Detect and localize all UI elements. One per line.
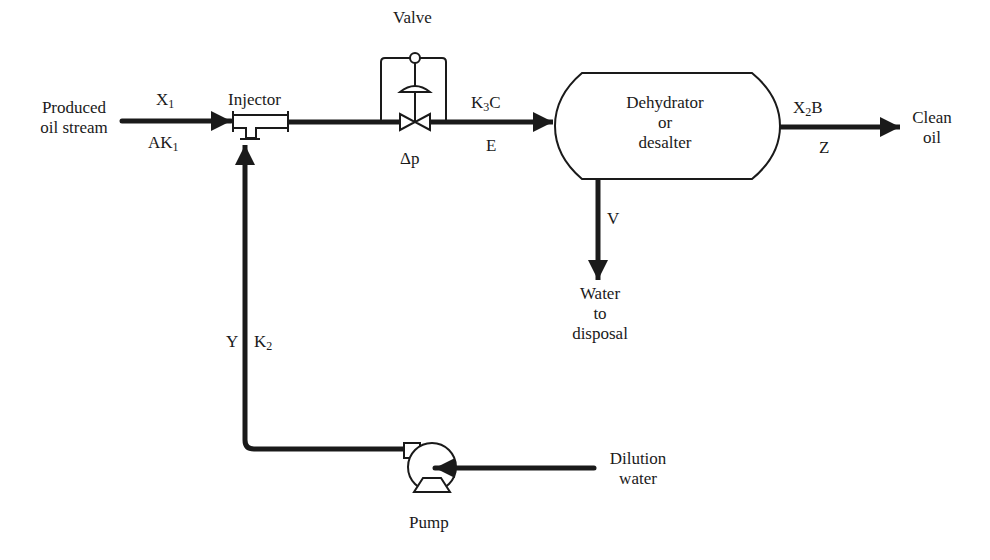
injector-icon bbox=[233, 111, 288, 139]
dehydrator-label-line1: Dehydrator bbox=[590, 93, 740, 113]
v-label: V bbox=[607, 209, 619, 229]
dilution-label-line1: Dilution bbox=[594, 449, 682, 469]
dehydrator-label-line2: or bbox=[590, 113, 740, 133]
dehydrator-label-line3: desalter bbox=[590, 133, 740, 153]
water-label-line1: Water bbox=[560, 284, 640, 304]
control-valve-icon bbox=[381, 53, 446, 130]
z-label: Z bbox=[819, 138, 829, 158]
dehydrator-label: Dehydrator or desalter bbox=[590, 93, 740, 153]
e-label: E bbox=[486, 136, 496, 156]
clean-oil-label-line1: Clean bbox=[902, 108, 962, 128]
flow-diagram-canvas bbox=[0, 0, 990, 560]
pump-label: Pump bbox=[409, 513, 449, 533]
clean-oil-label-line2: oil bbox=[902, 128, 962, 148]
water-label-line2: to bbox=[560, 304, 640, 324]
k3c-label: K3C bbox=[471, 93, 501, 113]
x2b-label: X2B bbox=[793, 98, 823, 118]
injector-label: Injector bbox=[228, 90, 281, 110]
produced-oil-label-line2: oil stream bbox=[28, 118, 120, 138]
dilution-water-label: Dilution water bbox=[594, 449, 682, 489]
water-label-line3: disposal bbox=[560, 324, 640, 344]
y-label: Y bbox=[226, 332, 238, 352]
water-to-disposal-label: Water to disposal bbox=[560, 284, 640, 344]
valve-label: Valve bbox=[393, 8, 432, 28]
produced-oil-stream-label: Produced oil stream bbox=[28, 98, 120, 138]
delta-p-label: Δp bbox=[400, 149, 419, 169]
ak1-label: AK1 bbox=[148, 133, 179, 153]
produced-oil-label-line1: Produced bbox=[28, 98, 120, 118]
dilution-label-line2: water bbox=[594, 469, 682, 489]
x1-label: X1 bbox=[156, 90, 174, 110]
clean-oil-label: Clean oil bbox=[902, 108, 962, 148]
k2-label: K2 bbox=[254, 332, 272, 352]
dilution-water-line-to-injector bbox=[245, 145, 403, 449]
